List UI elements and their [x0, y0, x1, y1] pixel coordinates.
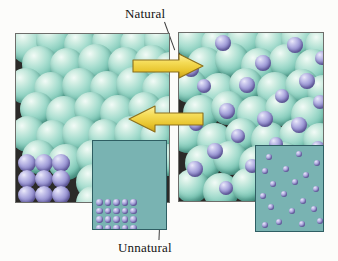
inset-solute-dot [105, 208, 112, 215]
solute-atom [299, 73, 315, 89]
inset-solute-dot [311, 206, 317, 212]
figure-canvas: Natural Unnatural [0, 0, 338, 261]
inset-solute-dot [130, 225, 137, 231]
inset-solute-dot [96, 225, 103, 231]
solute-atom [275, 89, 289, 103]
solute-atom [231, 129, 245, 143]
inset-solute-dot [262, 168, 268, 174]
solute-atom [207, 143, 223, 159]
inset-solute-dot [105, 216, 112, 223]
inset-solute-dot [130, 199, 137, 206]
inset-solute-dot [299, 221, 305, 227]
inset-solute-dot [313, 186, 319, 192]
solute-atom [257, 111, 273, 127]
inset-solute-dot [113, 208, 120, 215]
solute-atom [313, 95, 324, 109]
inset-solute-dot [289, 208, 295, 214]
solute-atom [291, 117, 307, 133]
solute-atom [287, 37, 303, 53]
solute-atom [215, 35, 231, 51]
inset-solute-dot [296, 151, 302, 157]
inset-solute-dot [113, 216, 120, 223]
solute-atom [18, 202, 36, 203]
solute-atom [219, 103, 235, 119]
inset-solute-dot [268, 204, 274, 210]
inset-ordered-phase [92, 140, 167, 230]
solute-atom [35, 202, 53, 203]
inset-solute-dot [281, 191, 287, 197]
inset-solute-dot [105, 225, 112, 231]
inset-solute-dot [122, 216, 129, 223]
inset-solute-dot [130, 216, 137, 223]
solute-atom [52, 186, 70, 203]
label-unnatural: Unnatural [118, 240, 172, 256]
inset-disordered-phase [255, 145, 324, 232]
solute-atom [52, 202, 70, 203]
inset-solute-dot [283, 166, 289, 172]
inset-solute-dot [122, 208, 129, 215]
solute-atom [239, 77, 255, 93]
solute-atom [197, 79, 211, 93]
label-natural: Natural [125, 6, 165, 22]
inset-solute-dot [130, 208, 137, 215]
solute-atom [219, 181, 233, 195]
inset-solute-dot [122, 225, 129, 231]
solute-atom [187, 161, 203, 177]
inset-solute-dot [113, 225, 120, 231]
solute-atom [315, 51, 324, 65]
inset-solute-dot [96, 199, 103, 206]
inset-solute-dot [314, 160, 320, 166]
inset-solute-dot [276, 219, 282, 225]
inset-solute-dot [113, 199, 120, 206]
solute-atom [35, 186, 53, 203]
inset-solute-dot [122, 199, 129, 206]
inset-solute-dot [317, 218, 323, 224]
arrow-natural-right [132, 53, 204, 79]
arrow-unnatural-left [128, 104, 204, 134]
inset-solute-dot [260, 193, 266, 199]
inset-solute-dot [105, 199, 112, 206]
solute-atom [255, 55, 271, 71]
solute-atom [18, 186, 36, 203]
inset-solute-dot [270, 181, 276, 187]
inset-solute-dot [262, 222, 268, 228]
inset-solute-dot [266, 154, 272, 160]
inset-solute-dot [96, 208, 103, 215]
inset-solute-dot [300, 198, 306, 204]
inset-solute-dot [303, 172, 309, 178]
inset-solute-dot [96, 216, 103, 223]
inset-solute-dot [292, 179, 298, 185]
